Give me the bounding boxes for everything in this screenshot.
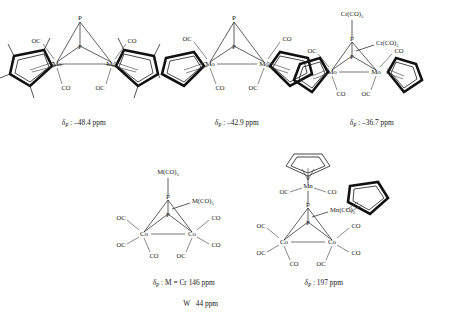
structure-2: P P Mo Mo OC CO CO OC bbox=[158, 4, 308, 114]
structure-3: Cr(CO)5 Cr(CO)5 P P Mo Mo OC CO bbox=[300, 4, 449, 114]
ligand-label-co-mn-left-5: OC bbox=[279, 188, 289, 195]
ligand-label-co-ll-5: OC bbox=[256, 249, 266, 256]
ligand-label-co-rl-4: CO bbox=[211, 241, 220, 248]
cp-star-ring-left-1 bbox=[0, 38, 64, 98]
ligand-label-co-ll-4: OC bbox=[116, 241, 126, 248]
ligand-label-co-ru-5: CO bbox=[351, 222, 360, 229]
ligand-label-co-mn-right-5: CO bbox=[327, 188, 336, 195]
structure-1: P P Mo Mo OC CO CO OC bbox=[0, 4, 160, 114]
caption-value-4: : M = Cr 146 ppm bbox=[159, 278, 215, 287]
atom-label-co-right-5: Co bbox=[328, 238, 337, 246]
caption-value-1: : –48.4 ppm bbox=[68, 118, 105, 127]
ligand-label-co-ur-2: CO bbox=[282, 35, 291, 42]
ligand-label-co-lr-1: OC bbox=[95, 84, 105, 91]
ligand-label-co-ul-1: OC bbox=[31, 37, 41, 44]
ligand-label-co-lu-5: OC bbox=[256, 222, 266, 229]
core-bonds-1 bbox=[57, 22, 111, 64]
ligand-label-co-ur-3: CO bbox=[394, 47, 403, 54]
cp-ring-left-2 bbox=[162, 52, 208, 86]
ligand-label-co-ul-2: OC bbox=[182, 35, 192, 42]
atom-label-p-bottom-5: P bbox=[306, 219, 310, 227]
caption-value-3: : –36.7 ppm bbox=[356, 118, 393, 127]
atom-label-p-bottom-1: P bbox=[78, 43, 82, 51]
atom-label-mo-right-3: Mo bbox=[371, 68, 381, 76]
caption-structure-5: δP : 197 ppm bbox=[265, 268, 375, 299]
atom-label-p-bottom-3: P bbox=[350, 53, 354, 61]
caption-structure-4: δP : M = Cr 146 ppm W 44 ppm bbox=[110, 268, 250, 312]
adduct-label-m-top-4: M(CO)5 bbox=[157, 168, 179, 177]
ligand-label-co-ul-3: OC bbox=[307, 47, 317, 54]
ligand-label-co-ll-2: CO bbox=[215, 84, 224, 91]
structure-5: Mn OC CO Mn(CO)2 bbox=[258, 140, 408, 270]
atom-label-p-bottom-2: P bbox=[232, 43, 236, 51]
adduct-label-m-mid-4: M(CO)5 bbox=[192, 197, 214, 206]
caption-value-5: : 197 ppm bbox=[311, 278, 343, 287]
ligand-label-co-lr-2: OC bbox=[248, 84, 258, 91]
atom-label-mn-top-5: Mn bbox=[303, 182, 313, 190]
ligand-label-co-rb-5: OC bbox=[316, 260, 326, 267]
ligand-label-co-rl-5: CO bbox=[351, 249, 360, 256]
caption-value-4-line2: W 44 ppm bbox=[149, 299, 218, 308]
ligand-label-co-rb-4: OC bbox=[176, 252, 186, 259]
atom-label-co-left-5: Co bbox=[280, 238, 289, 246]
atom-label-p-top-4: P bbox=[166, 193, 170, 201]
ligand-label-co-lr-3: OC bbox=[361, 90, 371, 97]
ligand-label-co-ur-1: CO bbox=[127, 37, 136, 44]
ligand-label-co-lb-4: CO bbox=[149, 252, 158, 259]
atom-label-co-left-4: Co bbox=[140, 230, 149, 238]
core-bonds-2 bbox=[210, 22, 264, 64]
adduct-label-cr-top-3: Cr(CO)5 bbox=[341, 10, 364, 19]
ligand-label-co-lb-5: CO bbox=[289, 260, 298, 267]
adduct-label-mn-side-5: Mn(CO)2 bbox=[330, 206, 356, 215]
atom-label-mo-left-2: Mo bbox=[205, 60, 215, 68]
atom-label-co-right-4: Co bbox=[188, 230, 197, 238]
cp-ring-left-3 bbox=[294, 58, 330, 92]
cp-ring-right-3 bbox=[386, 58, 422, 92]
ligand-label-co-ll-1: CO bbox=[61, 84, 70, 91]
cp-star-ring-right-1 bbox=[104, 38, 160, 98]
atom-label-p-top-1: P bbox=[78, 14, 82, 22]
atom-label-p-bottom-4: P bbox=[166, 211, 170, 219]
ligand-label-co-ll-3: CO bbox=[336, 90, 345, 97]
atom-label-p-top-3: P bbox=[350, 35, 354, 43]
ligand-label-co-ru-4: CO bbox=[211, 214, 220, 221]
caption-structure-2: δP : –42.9 ppm bbox=[178, 108, 288, 139]
atom-label-p-top-2: P bbox=[232, 14, 236, 22]
structure-4: M(CO)5 M(CO)5 P P Co Co OC bbox=[110, 158, 250, 270]
caption-structure-3: δP : –36.7 ppm bbox=[308, 108, 428, 139]
caption-structure-1: δP : –48.4 ppm bbox=[20, 108, 140, 139]
atom-label-p-top-5: P bbox=[306, 201, 310, 209]
caption-value-2: : –42.9 ppm bbox=[221, 118, 258, 127]
ligand-label-co-lu-4: OC bbox=[116, 214, 126, 221]
